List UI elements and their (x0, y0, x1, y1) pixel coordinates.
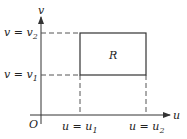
v-axis-label: v (38, 4, 45, 17)
origin-label: O (29, 118, 38, 131)
v2-label: v = v2 (4, 26, 38, 41)
u-axis-label: u (173, 109, 180, 122)
v1-label: v = v1 (4, 68, 38, 83)
region-label: R (108, 49, 117, 62)
u1-label: u = u1 (62, 120, 97, 135)
u2-label: u = u2 (129, 120, 164, 135)
uv-rectangle-diagram: v u O R v = v2 v = v1 u = u1 u = u2 (0, 0, 187, 139)
